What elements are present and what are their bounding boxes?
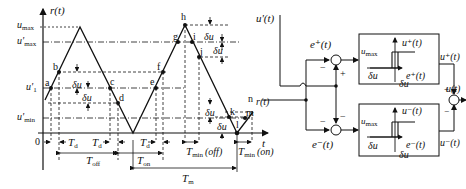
svg-text:c: c <box>110 76 115 87</box>
svg-text:e⁻(t): e⁻(t) <box>406 139 426 151</box>
svg-text:u⁺(t): u⁺(t) <box>402 37 422 49</box>
input-label: u'(t) <box>256 12 275 25</box>
u-min-prime-label: u'min <box>17 111 36 124</box>
svg-text:+: + <box>444 84 449 94</box>
svg-text:b: b <box>53 61 58 72</box>
svg-text:−: − <box>320 116 326 127</box>
svg-text:+: + <box>340 68 346 79</box>
trace-label: r(t) <box>256 96 270 108</box>
td-label-1: Td <box>68 136 78 150</box>
tm-label: Tm <box>182 172 194 186</box>
ton-label: Ton <box>137 154 151 168</box>
svg-text:h: h <box>181 11 186 22</box>
svg-text:d: d <box>119 92 124 103</box>
td-label-3: Td <box>140 136 150 150</box>
svg-text:δu: δu <box>217 121 227 132</box>
waveform-plot: r(t) t 0 umax u'max u'1 u'min <box>17 4 274 186</box>
svg-text:j: j <box>199 46 203 57</box>
sum-junction-upper <box>331 55 341 65</box>
diagram-canvas: r(t) t 0 umax u'max u'1 u'min <box>0 0 466 189</box>
svg-text:m: m <box>246 107 254 118</box>
u-plus-label: u⁺(t) <box>440 51 460 63</box>
relay-block-lower: u⁻(t) e⁻(t) umax δu δu <box>359 104 439 160</box>
point-labels: a b c d e f g h i j k l m n <box>45 11 254 130</box>
svg-text:δu: δu <box>205 107 215 118</box>
interval-labels: Td Td Td Toff Ton Tm Tmin(off) Tmin(on) <box>68 136 274 186</box>
svg-text:δu: δu <box>82 92 92 103</box>
svg-text:−: − <box>444 106 449 116</box>
svg-text:k: k <box>230 106 235 117</box>
e-plus-label: e⁺(t) <box>310 38 331 51</box>
svg-text:g: g <box>173 31 178 42</box>
svg-text:δu: δu <box>368 140 378 151</box>
tmin-on-label: Tmin(on) <box>238 145 274 159</box>
block-diagram: u'(t) − + − − e⁺(t) e⁻(t) u⁺(t) e⁺(t) um… <box>256 12 466 160</box>
svg-text:u⁻(t): u⁻(t) <box>402 105 422 117</box>
u-max-label: umax <box>17 19 35 32</box>
svg-text:δu: δu <box>204 31 214 42</box>
svg-text:−: − <box>320 62 326 73</box>
u1-prime-label: u'1 <box>26 81 37 94</box>
svg-text:δu: δu <box>399 78 409 89</box>
svg-text:e⁺(t): e⁺(t) <box>406 70 426 82</box>
svg-text:a: a <box>45 77 50 88</box>
u-minus-label: u⁻(t) <box>440 137 460 149</box>
svg-text:n: n <box>248 93 253 104</box>
e-minus-label: e⁻(t) <box>312 138 333 151</box>
origin-label: 0 <box>35 136 40 147</box>
y-axis-label: r(t) <box>50 4 65 17</box>
tmin-off-label: Tmin(off) <box>186 145 223 159</box>
svg-text:δu: δu <box>368 70 378 81</box>
svg-text:f: f <box>157 61 161 72</box>
figure: r(t) t 0 umax u'max u'1 u'min <box>0 0 466 189</box>
svg-text:δu: δu <box>72 79 82 90</box>
toff-label: Toff <box>86 154 101 168</box>
relay-block-upper: u⁺(t) e⁺(t) umax δu δu <box>359 34 439 89</box>
svg-text:e: e <box>150 76 155 87</box>
td-label-2: Td <box>92 136 102 150</box>
svg-text:δu: δu <box>213 45 223 56</box>
svg-text:l: l <box>236 119 239 130</box>
svg-text:i: i <box>193 31 196 42</box>
sum-junction-lower <box>331 125 341 135</box>
svg-text:−: − <box>340 111 346 122</box>
sum-junction-output <box>449 95 459 105</box>
svg-text:δu: δu <box>399 149 409 160</box>
u-max-prime-label: u'max <box>17 35 37 48</box>
